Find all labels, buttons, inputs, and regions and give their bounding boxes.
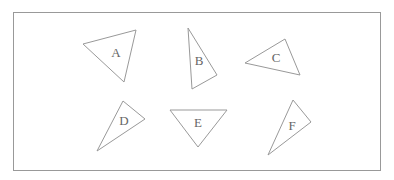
diagram-frame (14, 13, 381, 171)
triangle-e: E (170, 110, 227, 147)
triangle-label: A (111, 45, 121, 60)
triangle-label: D (119, 113, 128, 128)
triangle-shape (83, 30, 136, 82)
triangle-label: B (195, 53, 204, 68)
triangle-label: E (194, 115, 202, 130)
diagram-canvas: ABCDEF (0, 0, 394, 180)
triangle-d: D (97, 101, 145, 151)
triangle-b: B (188, 28, 217, 89)
triangle-f: F (268, 100, 311, 155)
triangle-label: F (288, 118, 295, 133)
triangle-c: C (245, 39, 300, 75)
triangle-a: A (83, 30, 136, 82)
triangle-label: C (272, 50, 281, 65)
